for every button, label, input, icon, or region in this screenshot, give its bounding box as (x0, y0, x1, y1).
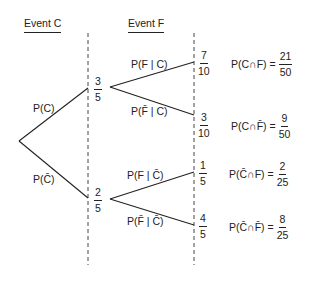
label-p-not-c: P(C̄) (33, 174, 55, 185)
numerator: 8 (279, 214, 287, 228)
branch-not-c (19, 141, 88, 198)
denominator: 5 (200, 227, 206, 240)
numerator: 3 (94, 76, 102, 90)
joint-label: P(C∩F) (231, 58, 267, 70)
joint-label: P(C∩F̄) (231, 120, 267, 132)
tree-lines (0, 0, 310, 288)
joint-fraction: 8 25 (277, 214, 289, 240)
equals-sign: = (268, 168, 274, 180)
label-f-given-c: P(F | C) (131, 59, 168, 70)
numerator: 3 (200, 112, 208, 126)
joint-c-and-not-f: P(C∩F̄) = 9 50 (231, 113, 290, 139)
denominator: 5 (200, 174, 206, 187)
joint-not-c-and-f: P(C̄∩F) = 2 25 (229, 161, 288, 187)
denominator: 10 (198, 64, 210, 77)
label-f-given-not-c: P(F | C̄) (127, 170, 164, 181)
joint-not-c-and-not-f: P(C̄∩F̄) = 8 25 (229, 214, 288, 240)
equals-sign: = (270, 58, 276, 70)
node-value-c: 3 5 (94, 76, 102, 102)
numerator: 21 (279, 51, 293, 65)
denominator: 50 (280, 65, 292, 78)
numerator: 7 (200, 50, 208, 64)
denominator: 5 (95, 90, 101, 103)
joint-fraction: 9 50 (279, 113, 291, 139)
header-event-f: Event F (128, 17, 164, 33)
joint-label: P(C̄∩F) (229, 168, 265, 180)
numerator: 2 (279, 161, 287, 175)
branch-c (19, 88, 88, 141)
joint-c-and-f: P(C∩F) = 21 50 (231, 51, 292, 77)
label-p-c: P(C) (33, 103, 55, 114)
value-not-f-given-c: 3 10 (198, 112, 210, 138)
numerator: 2 (94, 187, 102, 201)
denominator: 25 (277, 175, 289, 188)
joint-fraction: 21 50 (279, 51, 293, 77)
value-f-given-not-c: 1 5 (199, 160, 207, 186)
equals-sign: = (270, 120, 276, 132)
probability-tree-diagram: Event C Event F P(C) P(C̄) 3 5 2 5 P(F |… (0, 0, 310, 288)
label-not-f-given-not-c: P(F̄ | C̄) (127, 216, 164, 227)
value-f-given-c: 7 10 (198, 50, 210, 76)
denominator: 5 (95, 201, 101, 214)
joint-label: P(C̄∩F̄) (229, 221, 265, 233)
denominator: 10 (198, 126, 210, 139)
denominator: 50 (279, 127, 291, 140)
node-value-not-c: 2 5 (94, 187, 102, 213)
numerator: 1 (199, 160, 207, 174)
joint-fraction: 2 25 (277, 161, 289, 187)
value-not-f-given-not-c: 4 5 (199, 213, 207, 239)
label-not-f-given-c: P(F̄ | C) (131, 106, 168, 117)
equals-sign: = (268, 221, 274, 233)
numerator: 4 (199, 213, 207, 227)
numerator: 9 (281, 113, 289, 127)
denominator: 25 (277, 228, 289, 241)
header-event-c: Event C (24, 17, 61, 33)
